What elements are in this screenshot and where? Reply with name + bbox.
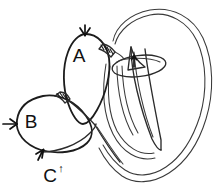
outer-contour-inner-line: [103, 14, 205, 175]
hatched-band-upper-group: [99, 44, 124, 59]
blade-tip-accent: [134, 52, 153, 137]
figure-canvas: A B C ↑: [0, 0, 220, 192]
hatched-band-upper-tail: [115, 52, 124, 59]
blade-right-edge: [145, 49, 161, 150]
inner-basin-inner-line: [108, 66, 154, 154]
junction-sweep-parallel: [97, 127, 123, 164]
blade-group: [131, 47, 161, 150]
line-drawing-svg: A B C ↑: [0, 0, 220, 192]
ring-ellipse: [111, 52, 167, 79]
label-c: C: [43, 165, 57, 186]
junction-sweep-group: [68, 100, 123, 164]
label-b: B: [25, 111, 38, 132]
oval-b-lower-fold: [41, 124, 96, 152]
ring-group: [111, 52, 167, 79]
arrow-to-b: [3, 119, 17, 129]
arrow-to-c: [36, 150, 44, 161]
label-c-up-arrow-icon: ↑: [58, 162, 64, 174]
label-a: A: [73, 45, 86, 66]
